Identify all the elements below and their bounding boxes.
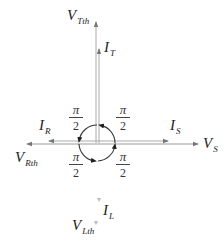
label-v-tth: VTth xyxy=(67,8,89,26)
angle-numerator: π xyxy=(116,103,130,118)
label-sub: Lth xyxy=(82,226,94,236)
label-main: V xyxy=(203,135,212,151)
angle-numerator: π xyxy=(69,103,83,118)
label-i-s: IS xyxy=(170,118,181,136)
label-main: I xyxy=(170,117,175,133)
angle-label-lower-right: π 2 xyxy=(116,150,130,179)
angle-label-upper-left: π 2 xyxy=(69,103,83,132)
label-sub: L xyxy=(109,211,114,221)
label-sub: T xyxy=(110,48,115,58)
i-l-arrow-tip xyxy=(97,198,101,202)
label-main: V xyxy=(67,7,76,23)
label-main: I xyxy=(103,202,108,218)
label-v-s: VS xyxy=(203,136,218,154)
angle-denominator: 2 xyxy=(116,165,130,179)
label-sub: S xyxy=(176,126,181,136)
angle-numerator: π xyxy=(116,150,130,165)
label-main: I xyxy=(104,39,109,55)
label-i-r: IR xyxy=(39,118,51,136)
label-v-lth: VLth xyxy=(72,218,94,236)
angle-denominator: 2 xyxy=(116,118,130,132)
label-sub: Tth xyxy=(77,16,89,26)
label-main: V xyxy=(72,217,81,233)
label-sub: R xyxy=(45,126,51,136)
label-i-t: IT xyxy=(104,40,115,58)
label-main: V xyxy=(15,149,24,165)
label-main: I xyxy=(39,117,44,133)
angle-numerator: π xyxy=(69,150,83,165)
v-lth-arrow-tip xyxy=(94,221,98,225)
angle-denominator: 2 xyxy=(69,118,83,132)
angle-label-lower-left: π 2 xyxy=(69,150,83,179)
angle-denominator: 2 xyxy=(69,165,83,179)
label-v-rth: VRth xyxy=(15,150,38,168)
angle-label-upper-right: π 2 xyxy=(116,103,130,132)
label-sub: Rth xyxy=(25,158,38,168)
rotation-circle xyxy=(79,125,115,161)
label-i-l: IL xyxy=(103,203,114,221)
label-sub: S xyxy=(213,144,218,154)
